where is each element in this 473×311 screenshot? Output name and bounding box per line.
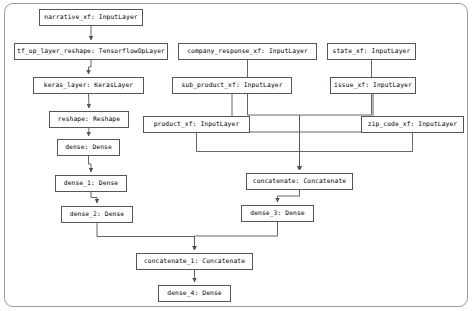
graph-edge-dense_3-to-concatenate_1 [195, 222, 278, 250]
graph-node-label: dense: Dense [65, 144, 112, 150]
graph-edge-tf_op_layer_reshape-to-keras_layer [89, 60, 92, 74]
graph-node-company_response_xf[interactable]: company_response_xf: InputLayer [178, 43, 317, 60]
graph-edge-dense_2-to-concatenate_1 [97, 223, 195, 250]
graph-edge-dense-to-dense_1 [89, 156, 92, 172]
graph-node-label: dense_3: Dense [250, 210, 304, 216]
graph-node-label: narrative_xf: InputLayer [44, 14, 137, 20]
graph-node-state_xf[interactable]: state_xf: InputLayer [327, 43, 416, 60]
graph-node-label: dense_4: Dense [167, 290, 221, 296]
graph-node-dense_1[interactable]: dense_1: Dense [55, 175, 127, 192]
graph-node-product_xf[interactable]: product_xf: InputLayer [143, 116, 250, 133]
graph-node-label: keras_layer: KerasLayer [44, 82, 134, 88]
graph-edge-dense_1-to-dense_2 [91, 192, 97, 203]
graph-node-concatenate[interactable]: concatenate: Concatenate [246, 173, 353, 190]
graph-node-label: dense_1: Dense [64, 180, 118, 186]
graph-node-zip_code_xf[interactable]: zip_code_xf: InputLayer [361, 116, 464, 133]
graph-node-label: concatenate: Concatenate [253, 178, 346, 184]
graph-node-label: sub_product_xf: InputLayer [181, 82, 282, 88]
graph-node-sub_product_xf[interactable]: sub_product_xf: InputLayer [172, 77, 292, 94]
graph-node-issue_xf[interactable]: issue_xf: InputLayer [330, 77, 416, 94]
graph-edge-keras_layer-to-reshape [89, 94, 90, 108]
graph-node-label: dense_2: Dense [70, 211, 124, 217]
graph-node-label: concatenate_1: Concatenate [144, 258, 245, 264]
graph-edge-reshape-to-dense [89, 128, 90, 136]
graph-node-label: zip_code_xf: InputLayer [368, 121, 458, 127]
graph-node-label: tf_op_layer_reshape: TensorflowOpLayer [17, 48, 165, 54]
graph-node-label: state_xf: InputLayer [333, 48, 411, 54]
graph-node-label: company_response_xf: InputLayer [187, 48, 308, 54]
graph-edge-product_xf-to-concatenate [197, 133, 300, 170]
graph-node-concatenate_1[interactable]: concatenate_1: Concatenate [136, 253, 253, 270]
graph-node-label: product_xf: InputLayer [154, 121, 240, 127]
graph-edge-zip_code_xf-to-concatenate [300, 133, 413, 170]
graph-node-label: reshape: Reshape [58, 116, 120, 122]
graph-node-dense_3[interactable]: dense_3: Dense [241, 205, 314, 222]
graph-node-dense[interactable]: dense: Dense [57, 139, 120, 156]
graph-node-label: issue_xf: InputLayer [334, 82, 412, 88]
graph-node-tf_op_layer_reshape[interactable]: tf_op_layer_reshape: TensorflowOpLayer [14, 43, 168, 60]
diagram-canvas: narrative_xf: InputLayertf_op_layer_resh… [0, 0, 473, 311]
graph-node-dense_2[interactable]: dense_2: Dense [61, 206, 133, 223]
graph-node-reshape[interactable]: reshape: Reshape [49, 111, 129, 128]
graph-node-keras_layer[interactable]: keras_layer: KerasLayer [33, 77, 144, 94]
graph-node-dense_4[interactable]: dense_4: Dense [158, 285, 231, 302]
graph-edge-concatenate-to-dense_3 [278, 190, 300, 202]
graph-node-narrative_xf[interactable]: narrative_xf: InputLayer [39, 9, 143, 26]
